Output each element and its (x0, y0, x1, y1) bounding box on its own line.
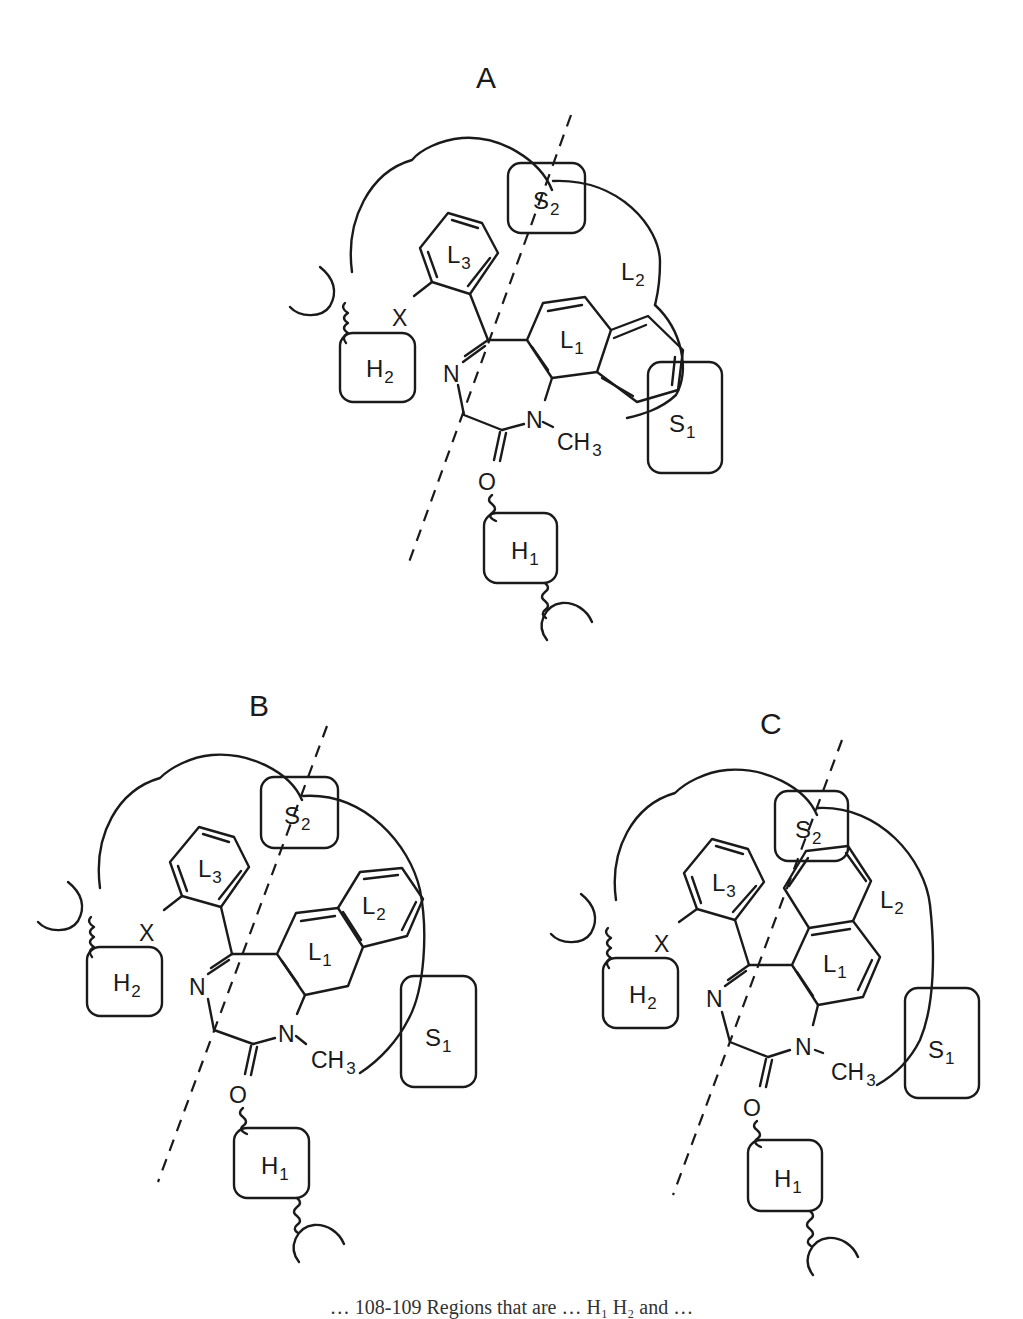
substituent-x: X (654, 931, 669, 957)
hbond-wavy-h1 (489, 495, 496, 521)
atom-methyl: CH3 (557, 429, 602, 460)
substituent-x: X (392, 305, 407, 331)
bond-n-aryl (545, 378, 552, 400)
bond-phenyl (221, 907, 232, 954)
bond-ch2 (208, 999, 253, 1044)
region-l1-label: L1 (823, 950, 847, 982)
bond-amide (253, 1038, 275, 1044)
receptor-site-h1 (294, 1225, 344, 1262)
bond-x (164, 896, 182, 910)
pocket-boundary-right (818, 808, 933, 1085)
atom-n-amide: N (278, 1021, 295, 1047)
atom-methyl: CH3 (831, 1059, 876, 1090)
hbond-wavy-h2 (343, 303, 348, 343)
receptor-site-h2 (38, 882, 82, 930)
region-h1-label: H1 (511, 537, 539, 569)
panel-title: C (760, 707, 782, 740)
region-h1-label: H1 (261, 1152, 289, 1184)
region-h1-label: H1 (774, 1165, 802, 1197)
region-h2-label: H2 (113, 969, 141, 1001)
panel-title: B (249, 689, 269, 722)
receptor-site-h2 (290, 267, 334, 315)
bond-phenyl (470, 294, 488, 340)
atom-oxygen: O (478, 469, 496, 495)
figure-caption: … 108-109 Regions that are … H₁ H₂ and … (0, 1296, 1023, 1319)
atom-n-imine: N (189, 974, 206, 1000)
bond-n-methyl (815, 1050, 823, 1053)
panel-title: A (476, 61, 496, 94)
region-s1-label: S1 (425, 1024, 451, 1056)
panel-b: B S2 L3 X L1 L2 N N CH3 O S1 (38, 689, 476, 1262)
bond-ch2 (458, 385, 502, 430)
region-l2-label: L2 (880, 886, 904, 918)
panel-a: A S2 L3 X L1 L2 N N (290, 61, 722, 640)
atom-n-amide: N (795, 1034, 812, 1060)
atom-oxygen: O (743, 1095, 761, 1121)
region-s2-label: S2 (795, 816, 821, 848)
hbond-wavy-h1 (754, 1121, 761, 1147)
hbond-wavy-h1-out (807, 1211, 813, 1246)
bond-carbonyl (760, 1059, 772, 1087)
bond-c-n-imine (725, 965, 749, 986)
panel-c: C S2 L3 X L1 L2 N N CH3 O S1 (551, 707, 979, 1275)
bond-c-n-imine (463, 340, 488, 362)
region-l2-label: L2 (362, 892, 386, 924)
region-l3-label: L3 (447, 241, 471, 273)
region-l3-label: L3 (712, 869, 736, 901)
bond-n-aryl (813, 1005, 818, 1025)
bond-x (414, 282, 432, 296)
dashed-axis (673, 740, 842, 1195)
bond-carbonyl (245, 1046, 257, 1075)
hbond-wavy-h2 (606, 928, 611, 968)
receptor-site-h2 (551, 894, 595, 942)
ring-l2-double-bonds (602, 325, 675, 396)
bond-phenyl (735, 920, 749, 965)
region-s1-label: S1 (928, 1036, 954, 1068)
atom-n-imine: N (706, 986, 723, 1012)
region-l2-label: L2 (621, 258, 645, 290)
region-l3-label: L3 (198, 855, 222, 887)
atom-methyl: CH3 (311, 1047, 356, 1078)
receptor-site-h1 (542, 603, 592, 640)
atom-oxygen: O (229, 1082, 247, 1108)
bond-n-methyl (296, 1036, 306, 1044)
substituent-x: X (139, 920, 154, 946)
atom-n-imine: N (443, 361, 460, 387)
bond-n-aryl (297, 995, 305, 1014)
bond-n-methyl (543, 422, 553, 427)
bond-amide (502, 424, 524, 430)
region-h2-label: H2 (629, 981, 657, 1013)
bond-carbonyl (494, 432, 506, 461)
bond-c-n-imine (208, 954, 232, 974)
ring-l1 (488, 297, 611, 378)
region-s1-label: S1 (669, 410, 695, 442)
region-l1-label: L1 (308, 938, 332, 970)
receptor-site-h1 (808, 1238, 858, 1275)
region-h2-label: H2 (366, 355, 394, 387)
bond-amide (768, 1050, 790, 1057)
region-s2-label: S2 (533, 187, 559, 219)
atom-n-amide: N (526, 407, 543, 433)
hbond-wavy-h1-out (294, 1198, 300, 1233)
region-l1-label: L1 (560, 326, 584, 358)
bond-x (679, 909, 697, 922)
bond-ch2 (722, 1012, 768, 1057)
pocket-boundary-right (303, 796, 424, 1073)
